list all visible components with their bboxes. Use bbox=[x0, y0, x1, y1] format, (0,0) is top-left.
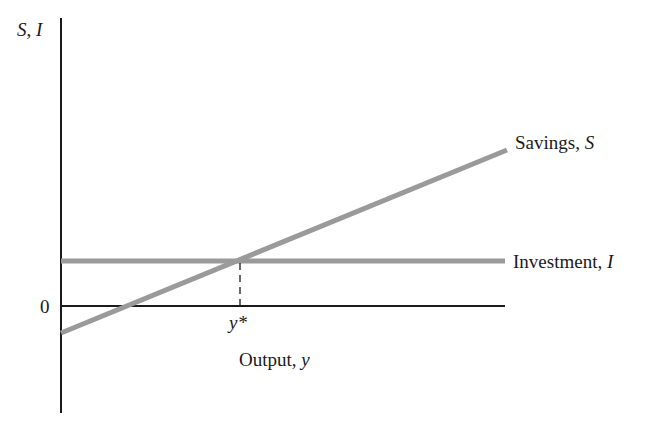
zero-label: 0 bbox=[40, 297, 50, 316]
y-label-sep: , bbox=[27, 19, 37, 40]
y-label-i: I bbox=[36, 19, 42, 40]
investment-label-symbol: I bbox=[607, 251, 613, 272]
x-axis-label: Output, y bbox=[239, 350, 310, 369]
savings-label-text: Savings, bbox=[515, 132, 585, 153]
investment-label-text: Investment, bbox=[513, 251, 607, 272]
savings-label-symbol: S bbox=[585, 132, 595, 153]
y-label-s: S bbox=[17, 19, 27, 40]
diagram-canvas bbox=[0, 0, 667, 445]
x-label-text: Output, bbox=[239, 349, 301, 370]
investment-label: Investment, I bbox=[513, 252, 613, 271]
savings-label: Savings, S bbox=[515, 133, 594, 152]
x-label-symbol: y bbox=[301, 349, 309, 370]
y-axis-label: S, I bbox=[17, 20, 42, 39]
ystar-label: y* bbox=[229, 313, 247, 332]
